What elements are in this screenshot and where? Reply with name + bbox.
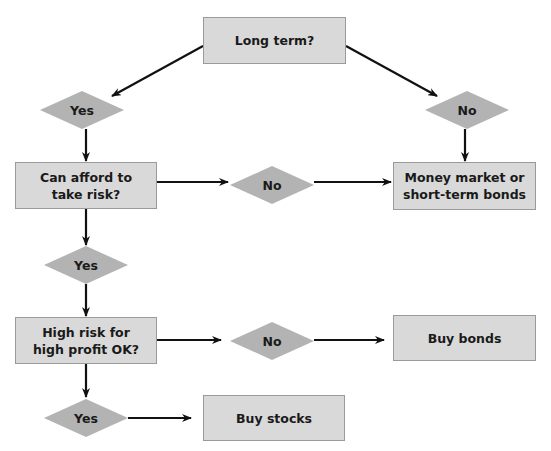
node-buy-stocks: Buy stocks (203, 395, 345, 441)
arrow-longterm-no (346, 46, 437, 96)
node-long-term-label: Long term? (235, 32, 315, 49)
node-high-risk: High risk for high profit OK? (15, 317, 157, 364)
arrow-longterm-yes (112, 46, 203, 96)
node-buy-bonds-label: Buy bonds (428, 330, 502, 347)
node-buy-stocks-label: Buy stocks (236, 410, 312, 427)
label-no-2: No (230, 166, 314, 204)
label-yes-1: Yes (40, 91, 124, 129)
node-buy-bonds: Buy bonds (393, 315, 536, 361)
flowchart-connectors (0, 0, 551, 451)
node-can-afford-label: Can afford to take risk? (40, 169, 132, 203)
label-yes-3: Yes (44, 399, 128, 437)
label-no-1: No (425, 91, 509, 129)
node-money-market: Money market or short-term bonds (393, 162, 536, 210)
label-yes-2: Yes (44, 246, 128, 284)
node-money-market-label: Money market or short-term bonds (403, 169, 526, 203)
label-no-3: No (230, 322, 314, 360)
node-long-term: Long term? (203, 17, 346, 64)
node-high-risk-label: High risk for high profit OK? (33, 324, 139, 358)
node-can-afford: Can afford to take risk? (15, 162, 157, 209)
